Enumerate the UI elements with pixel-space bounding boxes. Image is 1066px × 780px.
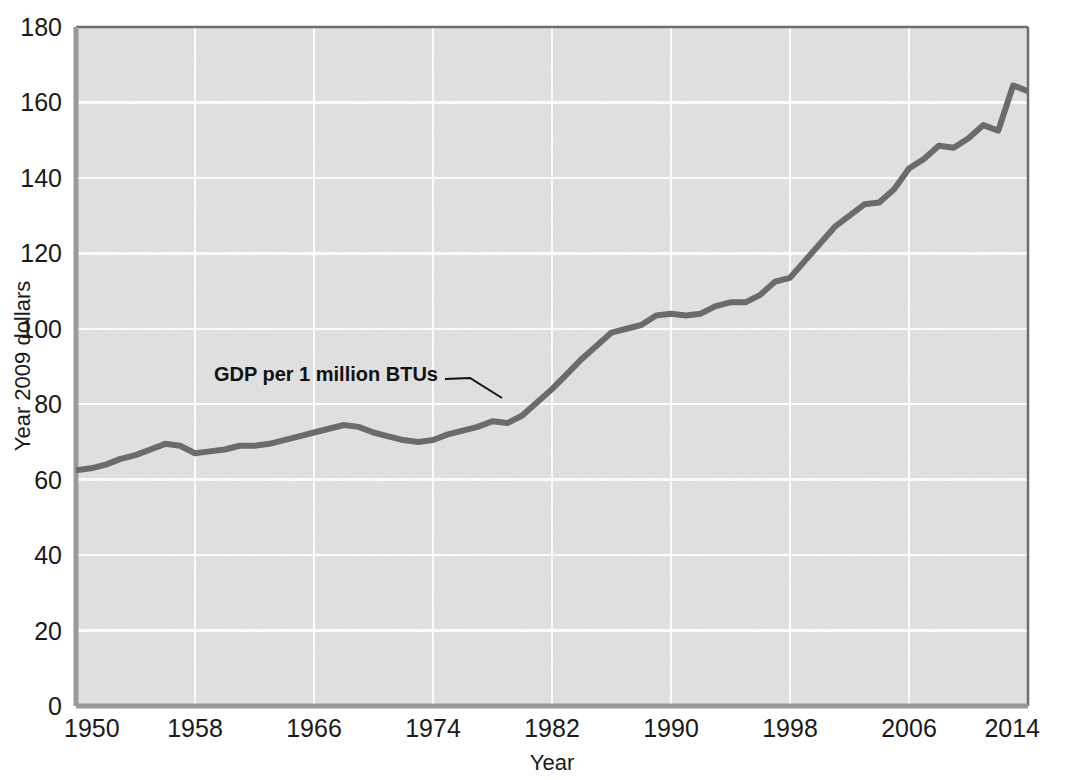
x-axis-tick-label: 1958 [167, 714, 223, 742]
y-axis-tick-label: 40 [34, 541, 62, 569]
x-axis-tick-label: 2006 [881, 714, 937, 742]
y-axis-tick-label: 160 [20, 88, 62, 116]
x-axis-tick-label: 1998 [762, 714, 818, 742]
x-axis-tick-label: 1982 [524, 714, 580, 742]
y-axis-tick-label: 20 [34, 617, 62, 645]
y-axis-tick-label: 120 [20, 239, 62, 267]
y-axis-tick-label: 80 [34, 390, 62, 418]
series-annotation-label: GDP per 1 million BTUs [214, 363, 438, 385]
x-axis-title: Year [530, 750, 574, 775]
y-axis-tick-label: 180 [20, 13, 62, 41]
x-axis-tick-label: 2014 [984, 714, 1040, 742]
x-axis-tick-label: 1990 [643, 714, 699, 742]
chart-container: 020406080100120140160180 195019581966197… [0, 0, 1066, 780]
x-axis-tick-label: 1966 [286, 714, 342, 742]
x-axis-tick-label: 1974 [405, 714, 461, 742]
x-axis-tick-label: 1950 [64, 714, 120, 742]
y-axis-tick-label: 0 [48, 692, 62, 720]
x-axis-tick-labels: 195019581966197419821990199820062014 [64, 714, 1040, 742]
line-chart: 020406080100120140160180 195019581966197… [0, 0, 1066, 780]
y-axis-tick-label: 140 [20, 164, 62, 192]
y-axis-tick-label: 60 [34, 466, 62, 494]
y-axis-title: Year 2009 dollars [10, 281, 35, 451]
